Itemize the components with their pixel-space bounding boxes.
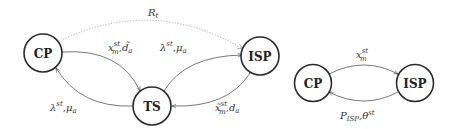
edge-ts-isp bbox=[164, 55, 242, 91]
right-diagram: CP ISP xstm PISP,θst bbox=[295, 47, 434, 123]
node-cp-label: CP bbox=[34, 47, 53, 61]
label-cp-ts: xstm,d̃a bbox=[108, 40, 132, 56]
label-isp-ts: x̃stm,da bbox=[215, 100, 239, 116]
label-right-isp-cp: PISP,θst bbox=[339, 109, 375, 123]
edge-ts-cp bbox=[56, 68, 133, 106]
node-ts: TS bbox=[133, 87, 171, 125]
diagram-canvas: CP TS ISP Rt xstm,d̃a λst,μa λst,μa x̃st… bbox=[0, 0, 454, 129]
left-diagram: CP TS ISP Rt xstm,d̃a λst,μa λst,μa x̃st… bbox=[24, 7, 279, 125]
node-right-cp-label: CP bbox=[304, 77, 323, 91]
label-ts-isp: λst,μa bbox=[159, 40, 187, 55]
node-cp: CP bbox=[24, 34, 62, 72]
node-isp-label: ISP bbox=[248, 50, 271, 64]
edge-cp-isp-dotted bbox=[58, 20, 243, 49]
label-r-t: Rt bbox=[147, 7, 159, 20]
edge-cp-ts bbox=[62, 52, 140, 91]
edge-isp-ts bbox=[172, 73, 250, 106]
node-isp: ISP bbox=[241, 37, 279, 75]
node-right-isp-label: ISP bbox=[403, 77, 426, 91]
node-right-isp: ISP bbox=[397, 65, 434, 102]
label-ts-cp: λst,μa bbox=[49, 100, 77, 115]
node-ts-label: TS bbox=[143, 100, 161, 114]
label-right-cp-isp: xstm bbox=[356, 47, 368, 63]
edge-right-cp-isp bbox=[329, 65, 398, 74]
node-right-cp: CP bbox=[295, 65, 332, 102]
edge-right-isp-cp bbox=[329, 92, 398, 101]
